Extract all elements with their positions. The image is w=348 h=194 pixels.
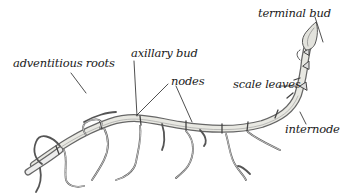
label-adventitious-roots: adventitious roots	[13, 58, 115, 70]
label-scale-leaves: scale leaves	[233, 79, 300, 91]
terminal-bud-shape	[302, 22, 317, 50]
label-internode: internode	[285, 124, 340, 136]
label-terminal-bud: terminal bud	[258, 8, 331, 20]
label-nodes: nodes	[171, 76, 204, 88]
label-axillary-bud: axillary bud	[131, 48, 198, 60]
rhizome-illustration	[0, 0, 348, 194]
rhizome-diagram: terminal bud adventitious roots axillary…	[0, 0, 348, 194]
